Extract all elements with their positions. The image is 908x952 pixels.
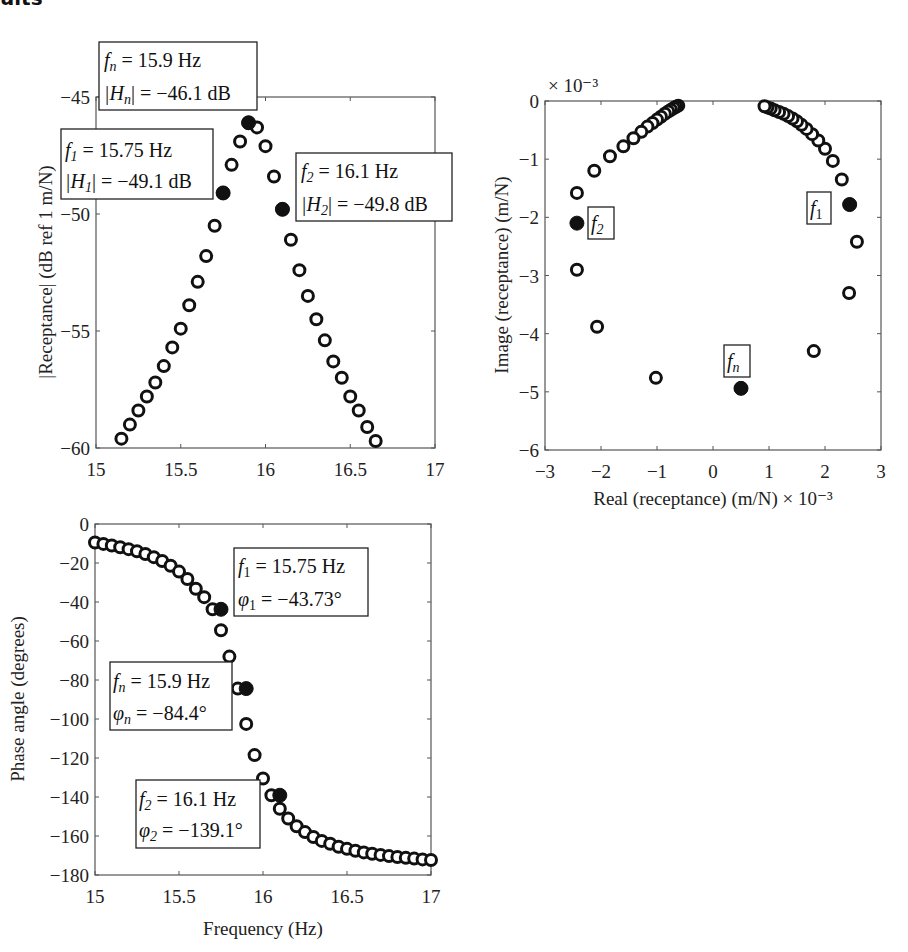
magnitude-annotation-f2: f2 = 16.1 Hz |H2| = −49.8 dB bbox=[296, 153, 452, 221]
data-point bbox=[216, 625, 227, 636]
data-point bbox=[759, 101, 770, 112]
phase-annotation-f1: f1 = 15.75 Hz φ1 = −43.73° bbox=[234, 548, 368, 616]
x-tick-label: 16 bbox=[256, 459, 275, 480]
phase-annotation-fn: fn = 15.9 Hz φn = −84.4° bbox=[110, 662, 232, 730]
data-point bbox=[311, 314, 322, 325]
data-point bbox=[150, 377, 161, 388]
data-point bbox=[141, 391, 152, 402]
highlighted-data-point bbox=[275, 202, 289, 216]
data-point bbox=[844, 287, 855, 298]
y-tick-label: −40 bbox=[59, 592, 89, 613]
data-point bbox=[260, 141, 271, 152]
data-point bbox=[362, 421, 373, 432]
phase-plot: 1515.51616.517 0−20−40−60−80−100−120−140… bbox=[7, 514, 441, 940]
y-tick-label: −60 bbox=[60, 438, 90, 459]
x-tick-label: 1 bbox=[764, 461, 774, 482]
data-point bbox=[592, 321, 603, 332]
y-tick-label: −140 bbox=[50, 787, 89, 808]
data-point bbox=[184, 300, 195, 311]
data-point bbox=[650, 372, 661, 383]
data-point bbox=[124, 419, 135, 430]
data-point bbox=[827, 155, 838, 166]
y-tick-label: −2 bbox=[519, 207, 539, 228]
data-point bbox=[158, 361, 169, 372]
data-point bbox=[319, 335, 330, 346]
svg-text:f2 = 16.1 Hz: f2 = 16.1 Hz bbox=[139, 788, 236, 813]
data-point bbox=[294, 265, 305, 276]
data-point bbox=[808, 346, 819, 357]
data-point bbox=[199, 592, 210, 603]
figure-canvas: 1515.51616.517 −45−50−55−60 |Receptance|… bbox=[0, 0, 908, 952]
data-point bbox=[851, 236, 862, 247]
data-point bbox=[370, 435, 381, 446]
phase-y-axis-label: Phase angle (degrees) bbox=[7, 616, 29, 782]
data-point bbox=[268, 171, 279, 182]
highlighted-data-point bbox=[734, 381, 748, 395]
y-tick-label: −5 bbox=[519, 382, 539, 403]
data-point bbox=[249, 750, 260, 761]
y-tick-label: −45 bbox=[60, 87, 90, 108]
nyquist-y-axis-label: Image (receptance) (m/N) bbox=[491, 176, 513, 373]
y-tick-label: −20 bbox=[59, 553, 89, 574]
nyquist-plot-frame bbox=[545, 101, 881, 450]
x-tick-label: −2 bbox=[591, 461, 611, 482]
data-point bbox=[175, 323, 186, 334]
x-tick-label: 17 bbox=[422, 886, 441, 907]
x-tick-label: 16 bbox=[254, 886, 273, 907]
highlighted-data-point bbox=[242, 116, 256, 130]
y-tick-label: −180 bbox=[50, 865, 89, 886]
highlighted-data-point bbox=[570, 216, 584, 230]
nyquist-annotation-f1: f1 bbox=[807, 192, 831, 224]
x-tick-label: −1 bbox=[647, 461, 667, 482]
data-point bbox=[618, 141, 629, 152]
data-point bbox=[426, 854, 437, 865]
data-point bbox=[336, 372, 347, 383]
data-point bbox=[241, 718, 252, 729]
y-tick-label: −3 bbox=[519, 266, 539, 287]
data-point bbox=[302, 290, 313, 301]
x-tick-label: 0 bbox=[708, 461, 718, 482]
x-tick-label: 15 bbox=[87, 459, 106, 480]
data-point bbox=[274, 803, 285, 814]
x-tick-label: 17 bbox=[426, 459, 445, 480]
y-tick-label: −100 bbox=[50, 709, 89, 730]
highlighted-data-point bbox=[216, 186, 230, 200]
x-tick-label: 15 bbox=[86, 886, 105, 907]
magnitude-plot: 1515.51616.517 −45−50−55−60 |Receptance|… bbox=[35, 42, 452, 480]
y-tick-label: −120 bbox=[50, 748, 89, 769]
svg-text:|H1| = −49.1 dB: |H1| = −49.1 dB bbox=[65, 170, 192, 195]
data-point bbox=[226, 159, 237, 170]
data-point bbox=[235, 136, 246, 147]
highlighted-data-point bbox=[239, 682, 253, 696]
data-point bbox=[167, 342, 178, 353]
data-point bbox=[328, 356, 339, 367]
data-point bbox=[836, 174, 847, 185]
svg-text:f2 = 16.1 Hz: f2 = 16.1 Hz bbox=[301, 160, 398, 185]
data-point bbox=[209, 220, 220, 231]
x-tick-label: 15.5 bbox=[162, 886, 195, 907]
data-point bbox=[285, 234, 296, 245]
data-point bbox=[353, 405, 364, 416]
magnitude-annotation-fn: fn = 15.9 Hz |Hn| = −46.1 dB bbox=[99, 42, 257, 110]
x-tick-label: 2 bbox=[820, 461, 830, 482]
svg-text:fn = 15.9 Hz: fn = 15.9 Hz bbox=[104, 49, 201, 74]
data-point bbox=[345, 391, 356, 402]
nyquist-x-axis-label: Real (receptance) (m/N) × 10⁻³ bbox=[593, 488, 833, 510]
data-point bbox=[116, 433, 127, 444]
y-tick-label: −50 bbox=[60, 204, 90, 225]
x-tick-label: 3 bbox=[876, 461, 886, 482]
data-point bbox=[628, 133, 639, 144]
phase-annotation-f2: f2 = 16.1 Hz φ2 = −139.1° bbox=[136, 780, 260, 848]
phase-x-axis-label: Frequency (Hz) bbox=[203, 918, 323, 940]
nyquist-y-exponent-label: × 10⁻³ bbox=[548, 75, 598, 96]
data-point bbox=[192, 276, 203, 287]
y-tick-label: −80 bbox=[59, 670, 89, 691]
y-tick-label: −60 bbox=[59, 631, 89, 652]
data-point bbox=[201, 251, 212, 262]
highlighted-data-point bbox=[843, 198, 857, 212]
x-tick-label: 16.5 bbox=[334, 459, 367, 480]
y-tick-label: −55 bbox=[60, 321, 90, 342]
magnitude-annotation-f1: f1 = 15.75 Hz |H1| = −49.1 dB bbox=[61, 129, 213, 199]
svg-text:f1 = 15.75 Hz: f1 = 15.75 Hz bbox=[238, 555, 345, 580]
x-tick-label: 15.5 bbox=[164, 459, 197, 480]
